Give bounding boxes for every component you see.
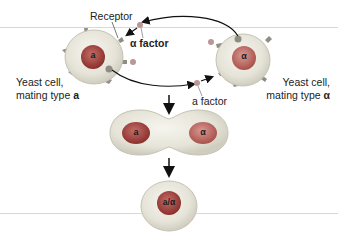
alpha-factor-molecule [137,22,143,28]
cell-alpha-type: α [324,89,330,101]
cell-alpha-caption: Yeast cell, mating type α [260,76,330,102]
a-factor-molecule [194,80,200,86]
alpha-factor-bind-arrow [127,28,137,35]
cell-a-caption: Yeast cell, mating type a [16,76,79,102]
a-factor-label: a factor [192,95,227,108]
a-factor-arrow [112,70,194,86]
nucleus-label-fused-alpha: α [196,127,210,137]
cell-a-caption-prefix: mating type [16,89,73,101]
receptor-leader [112,22,118,38]
cell-a-caption-line2: mating type a [16,89,79,102]
alpha-factor-label: α factor [130,37,169,50]
nucleus-label-cell-alpha: α [237,51,251,61]
cell-alpha-caption-prefix: mating type [266,89,323,101]
nucleus-label-fused-a: a [129,127,143,137]
cell-a-caption-line1: Yeast cell, [16,76,79,89]
receptor-label: Receptor [90,10,133,23]
cell-a-type: a [73,89,79,101]
alpha-factor-label-text: α factor [130,37,169,49]
cell-alpha-caption-line2: mating type α [260,89,330,102]
a-factor-bind-arrow [201,77,212,81]
nucleus-label-cell-a: a [86,50,100,60]
a-factor-label-text: a factor [192,95,227,107]
fused-cell [110,110,228,155]
nucleus-label-diploid: a/α [157,197,181,207]
alpha-factor-arrow [143,16,238,36]
cell-alpha-caption-line1: Yeast cell, [260,76,330,89]
